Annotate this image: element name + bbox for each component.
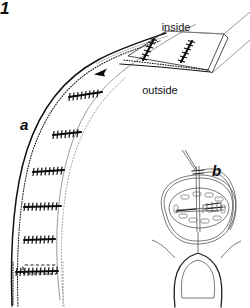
suture-rung (24, 202, 61, 211)
flap-tail-upper (224, 12, 250, 34)
flap-tail-lower (212, 40, 250, 73)
inset-outer-body-2 (164, 178, 233, 241)
tissue-inner-dotted-edge (18, 41, 160, 306)
panel-a-group (12, 12, 250, 306)
inset-flank-left (152, 240, 175, 258)
flap-outline (128, 31, 224, 70)
surgical-figure-svg: 1 inside outside a b (0, 0, 250, 308)
tissue-outer-edge (12, 33, 166, 306)
label-inside: inside (162, 21, 191, 33)
suture-rung (24, 235, 55, 244)
outer-guide-contour (57, 24, 196, 300)
inset-thread-left-2 (185, 150, 198, 171)
figure-canvas: 1 inside outside a b (0, 0, 250, 308)
flap-thickness-edge (208, 34, 228, 73)
figure-corner-mark: 1 (0, 0, 9, 18)
inset-u-structure-inner (181, 260, 214, 298)
flap-suture (178, 41, 195, 63)
panel-label-a: a (20, 116, 28, 133)
tissue-edge-shadow (96, 36, 168, 64)
suture-rung (69, 90, 102, 102)
inset-thread-right-2 (201, 172, 233, 229)
inset-clamp (203, 202, 222, 213)
inset-thread-left (182, 150, 196, 171)
inner-dotted-contour (61, 78, 125, 306)
suture-rung (16, 267, 58, 276)
panel-label-b: b (212, 162, 221, 179)
inset-flank-right (221, 241, 241, 258)
label-outside: outside (142, 84, 177, 96)
panel-b-group (152, 150, 241, 307)
inset-needle-shaft-2 (199, 166, 200, 232)
inset-u-structure-outer (174, 253, 222, 307)
suture-rung (33, 167, 64, 176)
direction-arrowhead (94, 69, 107, 77)
suture-ladder (16, 90, 102, 277)
